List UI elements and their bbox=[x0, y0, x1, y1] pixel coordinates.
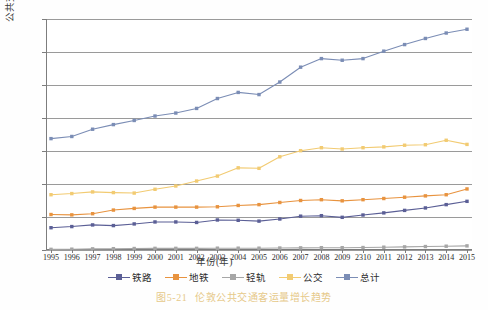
caption-number: 图5-21 bbox=[156, 292, 187, 303]
chart-legend: 铁路地铁轻轨公交总计 bbox=[0, 269, 488, 285]
legend-item-公交[interactable]: 公交 bbox=[279, 270, 323, 284]
y-axis-title: 公共交通客运量(百万人) bbox=[2, 0, 16, 54]
x-axis-ticks: 1995199619971998199920002001200220032004… bbox=[46, 250, 472, 266]
y-tick-mark bbox=[42, 19, 46, 20]
legend-swatch-icon bbox=[279, 273, 301, 282]
caption-text: 伦敦公共交通客运量增长趋势 bbox=[195, 292, 332, 303]
legend-item-总计[interactable]: 总计 bbox=[336, 270, 380, 284]
legend-label: 公交 bbox=[303, 270, 323, 284]
legend-swatch-icon bbox=[336, 273, 358, 282]
legend-label: 总计 bbox=[360, 270, 380, 284]
legend-swatch-icon bbox=[222, 273, 244, 282]
figure-caption: 图5-21伦敦公共交通客运量增长趋势 bbox=[0, 289, 488, 304]
y-tick-mark bbox=[42, 151, 46, 152]
legend-item-铁路[interactable]: 铁路 bbox=[108, 270, 152, 284]
legend-item-轻轨[interactable]: 轻轨 bbox=[222, 270, 266, 284]
legend-label: 轻轨 bbox=[246, 270, 266, 284]
y-tick-mark bbox=[42, 184, 46, 185]
legend-label: 铁路 bbox=[132, 270, 152, 284]
legend-label: 地铁 bbox=[189, 270, 209, 284]
y-tick-mark bbox=[42, 217, 46, 218]
x-axis-title: 年份(年) bbox=[196, 254, 232, 268]
y-tick-mark bbox=[42, 52, 46, 53]
x-tick-label: 2015 bbox=[452, 253, 482, 262]
y-axis-ticks: 02468101214 bbox=[46, 19, 472, 250]
y-tick-mark bbox=[42, 118, 46, 119]
legend-swatch-icon bbox=[165, 273, 187, 282]
legend-item-地铁[interactable]: 地铁 bbox=[165, 270, 209, 284]
chart-figure: 公共交通客运量(百万人) 02468101214 199519961997199… bbox=[0, 0, 488, 310]
legend-swatch-icon bbox=[108, 273, 130, 282]
y-tick-mark bbox=[42, 85, 46, 86]
